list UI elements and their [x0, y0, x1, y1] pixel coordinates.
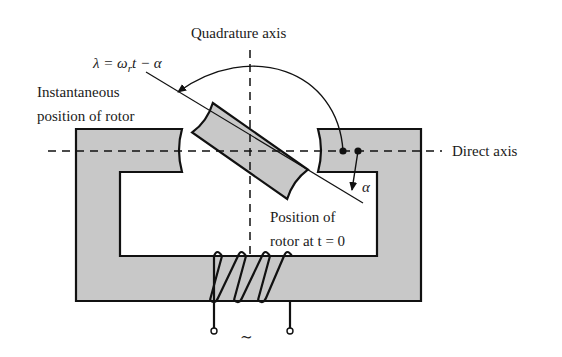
ac-source-symbol: ∼ [240, 329, 253, 345]
position-label-line1: Position of [270, 209, 335, 225]
terminal-right [287, 328, 293, 334]
reluctance-motor-diagram: Quadrature axis Direct axis λ = ωrt − α … [0, 0, 562, 357]
position-label-line2: rotor at t = 0 [270, 233, 345, 249]
terminal-left [211, 328, 217, 334]
quadrature-axis-label: Quadrature axis [191, 25, 287, 41]
equation-label: λ = ωrt − α [92, 55, 163, 74]
instantaneous-label-line2: position of rotor [37, 108, 135, 124]
direct-axis-label: Direct axis [452, 143, 518, 159]
alpha-label: α [362, 179, 371, 195]
instantaneous-label-line1: Instantaneous [37, 84, 120, 100]
